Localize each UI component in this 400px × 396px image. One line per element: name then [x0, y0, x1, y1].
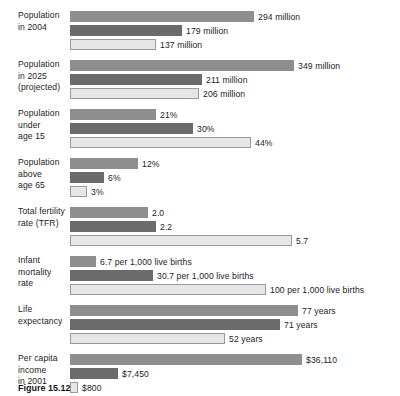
- metric-label: Total fertilityrate (TFR): [0, 206, 70, 229]
- bar-series-1: [70, 60, 294, 71]
- bar-series-3: [70, 333, 225, 344]
- bar-row: 12%: [70, 158, 400, 169]
- bar-series-2: [70, 270, 153, 281]
- metric-label-line: age 15: [18, 131, 70, 143]
- metric-label: Lifeexpectancy: [0, 304, 70, 327]
- bar-value-label: 30.7 per 1,000 live births: [157, 271, 254, 281]
- bar-stack: 2.02.25.7: [70, 206, 400, 249]
- bar-series-2: [70, 319, 280, 330]
- bar-row: 52 years: [70, 333, 400, 344]
- metric-label: Populationin 2025(projected): [0, 59, 70, 94]
- metric-label-line: Population: [18, 157, 70, 169]
- metric-label-line: expectancy: [18, 316, 70, 328]
- metric-label: Populationunderage 15: [0, 108, 70, 143]
- bar-stack: 21%30%44%: [70, 108, 400, 151]
- bar-series-2: [70, 25, 182, 36]
- metric-group: Populationin 2004294 million179 million1…: [0, 10, 400, 53]
- bar-series-1: [70, 354, 302, 365]
- bar-value-label: 30%: [197, 124, 215, 134]
- bar-value-label: 5.7: [296, 236, 308, 246]
- bar-row: 30.7 per 1,000 live births: [70, 270, 400, 281]
- metric-label-line: Population: [18, 108, 70, 120]
- metric-label: Populationaboveage 65: [0, 157, 70, 192]
- bar-value-label: 100 per 1,000 live births: [270, 285, 364, 295]
- metric-label-line: Infant: [18, 255, 70, 267]
- metric-label-line: Per capita: [18, 353, 70, 365]
- chart-groups: Populationin 2004294 million179 million1…: [0, 0, 400, 396]
- bar-value-label: $7,450: [122, 369, 149, 379]
- bar-row: 2.2: [70, 221, 400, 232]
- metric-label-line: Life: [18, 304, 70, 316]
- bar-row: $7,450: [70, 368, 400, 379]
- bar-series-3: [70, 235, 292, 246]
- metric-group: Infantmortalityrate6.7 per 1,000 live bi…: [0, 255, 400, 298]
- metric-label: Infantmortalityrate: [0, 255, 70, 290]
- metric-group: Lifeexpectancy77 years71 years52 years: [0, 304, 400, 347]
- bar-series-2: [70, 172, 104, 183]
- metric-label-line: under: [18, 120, 70, 132]
- metric-group: Populationunderage 1521%30%44%: [0, 108, 400, 151]
- bar-series-1: [70, 256, 96, 267]
- figure-caption: Figure 15.12: [18, 383, 76, 393]
- bar-value-label: 294 million: [258, 12, 300, 22]
- bar-stack: 12%6%3%: [70, 157, 400, 200]
- metric-label-line: (projected): [18, 82, 70, 94]
- metric-label-line: rate: [18, 278, 70, 290]
- metric-label-line: in 2025: [18, 71, 70, 83]
- bar-value-label: 12%: [142, 159, 160, 169]
- bar-value-label: 21%: [160, 110, 178, 120]
- bar-series-2: [70, 123, 193, 134]
- bar-value-label: 6%: [108, 173, 121, 183]
- bar-value-label: 137 million: [160, 40, 202, 50]
- metric-label-line: rate (TFR): [18, 218, 70, 230]
- bar-value-label: 206 million: [203, 89, 245, 99]
- bar-row: 206 million: [70, 88, 400, 99]
- bar-value-label: 2.2: [160, 222, 172, 232]
- bar-row: 71 years: [70, 319, 400, 330]
- bar-value-label: 2.0: [152, 208, 164, 218]
- bar-stack: 349 million211 million206 million: [70, 59, 400, 102]
- bar-stack: 77 years71 years52 years: [70, 304, 400, 347]
- bar-series-3: [70, 284, 266, 295]
- metric-label-line: Total fertility: [18, 206, 70, 218]
- bar-series-2: [70, 74, 202, 85]
- bar-row: $800: [70, 382, 400, 393]
- bar-row: 77 years: [70, 305, 400, 316]
- metric-group: Populationin 2025(projected)349 million2…: [0, 59, 400, 102]
- bar-value-label: 211 million: [206, 75, 248, 85]
- bar-stack: 294 million179 million137 million: [70, 10, 400, 53]
- metric-label-line: Population: [18, 10, 70, 22]
- bar-row: 5.7: [70, 235, 400, 246]
- metric-label-line: income: [18, 365, 70, 377]
- metric-label-line: above: [18, 169, 70, 181]
- bar-value-label: 3%: [91, 187, 104, 197]
- metric-label-line: in 2004: [18, 22, 70, 34]
- bar-value-label: $36,110: [306, 355, 337, 365]
- bar-series-1: [70, 158, 138, 169]
- bar-series-2: [70, 221, 156, 232]
- bar-row: 2.0: [70, 207, 400, 218]
- bar-series-2: [70, 368, 118, 379]
- bar-row: $36,110: [70, 354, 400, 365]
- bar-stack: $36,110$7,450$800: [70, 353, 400, 396]
- bar-series-1: [70, 109, 156, 120]
- bar-stack: 6.7 per 1,000 live births30.7 per 1,000 …: [70, 255, 400, 298]
- bar-series-3: [70, 39, 156, 50]
- bar-row: 349 million: [70, 60, 400, 71]
- bar-series-1: [70, 305, 298, 316]
- bar-value-label: 77 years: [302, 306, 336, 316]
- bar-row: 6%: [70, 172, 400, 183]
- bar-value-label: 349 million: [298, 61, 340, 71]
- bar-row: 137 million: [70, 39, 400, 50]
- bar-row: 3%: [70, 186, 400, 197]
- bar-value-label: 179 million: [186, 26, 228, 36]
- bar-value-label: 6.7 per 1,000 live births: [100, 257, 192, 267]
- metric-label-line: age 65: [18, 180, 70, 192]
- bar-row: 21%: [70, 109, 400, 120]
- bar-row: 294 million: [70, 11, 400, 22]
- bar-row: 179 million: [70, 25, 400, 36]
- bar-series-1: [70, 11, 254, 22]
- bar-row: 30%: [70, 123, 400, 134]
- metric-label-line: mortality: [18, 267, 70, 279]
- metric-group: Total fertilityrate (TFR)2.02.25.7: [0, 206, 400, 249]
